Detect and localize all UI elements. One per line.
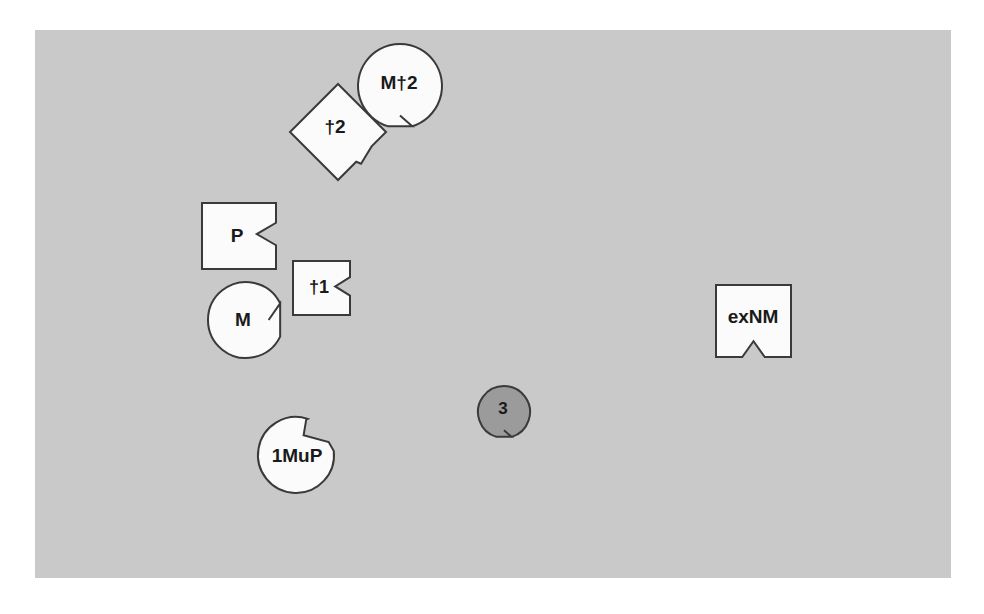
shapes-canvas: M†2†2P†1M1MuP3exNM	[0, 0, 984, 614]
shape-label-m: M	[235, 309, 251, 330]
shape-m-dagger-2[interactable]: M†2	[358, 44, 442, 126]
shape-label-m-dagger-2: M†2	[381, 72, 418, 93]
shape-label-ex-nm: exNM	[728, 306, 779, 327]
shape-label-three: 3	[498, 399, 507, 418]
shape-label-one-mu-p: 1MuP	[272, 445, 323, 466]
shape-m[interactable]: M	[208, 282, 280, 358]
diagram-stage: M†2†2P†1M1MuP3exNM	[0, 0, 984, 614]
shape-label-p: P	[231, 225, 244, 246]
shape-label-dagger-2: †2	[324, 116, 345, 137]
shape-three[interactable]: 3	[478, 386, 530, 437]
canvas-background	[35, 30, 951, 578]
shape-label-dagger-1: †1	[309, 277, 329, 297]
